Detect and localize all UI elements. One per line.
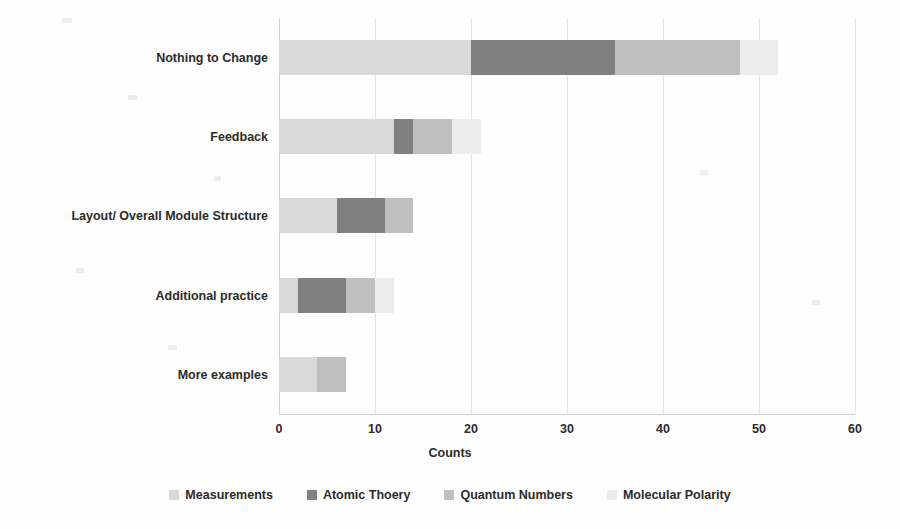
bar-segment[interactable] — [615, 40, 740, 75]
category-label: Additional practice — [0, 289, 268, 303]
x-axis-title: Counts — [0, 446, 900, 460]
category-label: More examples — [0, 368, 268, 382]
bar-segment[interactable] — [317, 357, 346, 392]
stacked-bar[interactable] — [279, 198, 413, 233]
bar-segment[interactable] — [413, 119, 451, 154]
x-tick-30: 30 — [547, 422, 587, 436]
gridline-60 — [855, 18, 856, 414]
x-tick-20: 20 — [451, 422, 491, 436]
bar-segment[interactable] — [279, 198, 337, 233]
legend-label: Atomic Thoery — [323, 488, 411, 502]
bar-segment[interactable] — [298, 278, 346, 313]
bar-segment[interactable] — [394, 119, 413, 154]
bar-row — [279, 176, 855, 255]
bar-segment[interactable] — [346, 278, 375, 313]
category-label: Nothing to Change — [0, 51, 268, 65]
scan-artifact — [168, 345, 177, 350]
legend-item[interactable]: Atomic Thoery — [307, 488, 411, 502]
plot-area — [279, 18, 855, 414]
stacked-bar[interactable] — [279, 40, 778, 75]
stacked-bar[interactable] — [279, 278, 394, 313]
bar-segment[interactable] — [279, 278, 298, 313]
bar-segment[interactable] — [385, 198, 414, 233]
legend-swatch-icon — [607, 490, 617, 500]
legend-swatch-icon — [444, 490, 454, 500]
bar-row — [279, 97, 855, 176]
bar-segment[interactable] — [375, 278, 394, 313]
category-label: Layout/ Overall Module Structure — [0, 209, 268, 223]
x-tick-40: 40 — [643, 422, 683, 436]
legend-swatch-icon — [169, 490, 179, 500]
legend-swatch-icon — [307, 490, 317, 500]
bar-segment[interactable] — [279, 40, 471, 75]
scan-artifact — [76, 268, 84, 273]
stacked-bar[interactable] — [279, 119, 481, 154]
bar-segment[interactable] — [337, 198, 385, 233]
stacked-bar-chart: Nothing to ChangeFeedbackLayout/ Overall… — [0, 0, 900, 529]
stacked-bar[interactable] — [279, 357, 346, 392]
legend-label: Quantum Numbers — [460, 488, 573, 502]
x-tick-10: 10 — [355, 422, 395, 436]
chart-legend: MeasurementsAtomic ThoeryQuantum Numbers… — [0, 488, 900, 502]
scan-artifact — [214, 176, 221, 181]
bar-segment[interactable] — [740, 40, 778, 75]
x-tick-0: 0 — [259, 422, 299, 436]
x-tick-60: 60 — [835, 422, 875, 436]
bar-row — [279, 18, 855, 97]
x-axis-line — [279, 414, 855, 415]
scan-artifact — [128, 95, 137, 100]
legend-label: Molecular Polarity — [623, 488, 731, 502]
x-tick-50: 50 — [739, 422, 779, 436]
bar-row — [279, 335, 855, 414]
legend-item[interactable]: Molecular Polarity — [607, 488, 731, 502]
bar-segment[interactable] — [452, 119, 481, 154]
bar-segment[interactable] — [279, 119, 394, 154]
bar-segment[interactable] — [471, 40, 615, 75]
legend-item[interactable]: Measurements — [169, 488, 273, 502]
bar-segment[interactable] — [279, 357, 317, 392]
bar-row — [279, 256, 855, 335]
category-label: Feedback — [0, 130, 268, 144]
legend-item[interactable]: Quantum Numbers — [444, 488, 573, 502]
scan-artifact — [62, 18, 72, 23]
legend-label: Measurements — [185, 488, 273, 502]
